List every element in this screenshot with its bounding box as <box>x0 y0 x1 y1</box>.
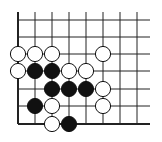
white-stone <box>10 63 25 78</box>
black-stone <box>27 63 42 78</box>
white-stone <box>44 98 59 113</box>
white-stone <box>95 98 110 113</box>
white-stone <box>44 46 59 61</box>
white-stone <box>44 116 59 131</box>
black-stone <box>27 98 42 113</box>
go-board <box>0 0 162 142</box>
white-stone <box>95 81 110 96</box>
white-stone <box>27 46 42 61</box>
white-stone <box>78 63 93 78</box>
black-stone <box>44 81 59 96</box>
white-stone <box>10 46 25 61</box>
black-stone <box>61 116 76 131</box>
white-stone <box>95 46 110 61</box>
black-stone <box>78 81 93 96</box>
white-stone <box>61 63 76 78</box>
black-stone <box>44 63 59 78</box>
black-stone <box>61 81 76 96</box>
